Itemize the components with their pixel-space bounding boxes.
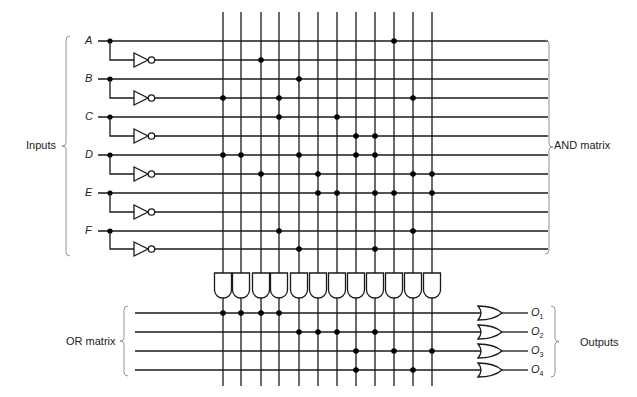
- or-connection-dot: [238, 310, 244, 316]
- and-connection-dot: [296, 152, 302, 158]
- and-gate-icon: [233, 273, 250, 298]
- and-connection-dot: [429, 171, 435, 177]
- and-connection-dot: [238, 152, 244, 158]
- and-gate-icon: [215, 273, 232, 298]
- and-connection-dot: [353, 152, 359, 158]
- and-connection-dot: [334, 190, 340, 196]
- and-connection-dot: [276, 95, 282, 101]
- or-gate-icon: [478, 363, 502, 377]
- and-connection-dot: [391, 38, 397, 44]
- and-gate-icon: [310, 273, 327, 298]
- inputs-label: Inputs: [26, 140, 56, 151]
- and-connection-dot: [429, 190, 435, 196]
- and-connection-dot: [315, 171, 321, 177]
- input-label-c: C: [85, 111, 93, 122]
- inverter-icon: [134, 91, 148, 105]
- and-gate-icon: [271, 273, 288, 298]
- inverter-bubble: [148, 95, 154, 101]
- inverter-bubble: [148, 171, 154, 177]
- and-connection-dot: [372, 133, 378, 139]
- or-connection-dot: [334, 329, 340, 335]
- or-connection-dot: [429, 348, 435, 354]
- outputs-bracket: [551, 306, 559, 377]
- and-connection-dot: [276, 114, 282, 120]
- and-connection-dot: [315, 190, 321, 196]
- and-matrix-label: AND matrix: [554, 140, 610, 151]
- inverter-bubble: [148, 209, 154, 215]
- output-label-2: O2: [531, 326, 543, 339]
- inverter-icon: [134, 167, 148, 181]
- or-connection-dot: [220, 310, 226, 316]
- and-gate-icon: [405, 273, 422, 298]
- and-gate-icon: [367, 273, 384, 298]
- inverter-branch: [110, 79, 134, 98]
- input-label-e: E: [85, 187, 92, 198]
- and-matrix-bracket: [545, 40, 553, 254]
- or-connection-dot: [296, 329, 302, 335]
- inverter-branch: [110, 41, 134, 60]
- and-gate-icon: [329, 273, 346, 298]
- input-label-d: D: [85, 149, 93, 160]
- inverter-icon: [134, 242, 148, 256]
- and-connection-dot: [296, 76, 302, 82]
- outputs-label: Outputs: [580, 337, 619, 348]
- and-connection-dot: [258, 57, 264, 63]
- output-label-3: O3: [531, 345, 543, 358]
- inverter-bubble: [148, 57, 154, 63]
- and-connection-dot: [258, 171, 264, 177]
- or-connection-dot: [315, 329, 321, 335]
- and-connection-dot: [372, 152, 378, 158]
- inverter-branch: [110, 231, 134, 249]
- or-connection-dot: [391, 348, 397, 354]
- and-connection-dot: [410, 228, 416, 234]
- and-gate-icon: [386, 273, 403, 298]
- and-connection-dot: [410, 171, 416, 177]
- and-gate-icon: [253, 273, 270, 298]
- inverter-icon: [134, 53, 148, 67]
- inverter-branch: [110, 155, 134, 174]
- output-label-4: O4: [531, 364, 543, 377]
- and-connection-dot: [220, 152, 226, 158]
- and-gate-icon: [424, 273, 441, 298]
- and-connection-dot: [276, 228, 282, 234]
- and-connection-dot: [220, 95, 226, 101]
- or-matrix-label: OR matrix: [66, 336, 116, 347]
- inverter-bubble: [148, 133, 154, 139]
- or-matrix-bracket: [120, 306, 128, 376]
- or-connection-dot: [353, 367, 359, 373]
- inputs-bracket: [62, 36, 70, 256]
- or-connection-dot: [372, 329, 378, 335]
- output-label-1: O1: [531, 307, 543, 320]
- inverter-branch: [110, 193, 134, 212]
- or-connection-dot: [276, 310, 282, 316]
- and-connection-dot: [296, 246, 302, 252]
- or-gate-icon: [478, 325, 502, 339]
- or-connection-dot: [353, 348, 359, 354]
- or-gate-icon: [478, 344, 502, 358]
- input-label-f: F: [85, 225, 92, 236]
- inverter-bubble: [148, 246, 154, 252]
- and-connection-dot: [372, 246, 378, 252]
- and-connection-dot: [372, 190, 378, 196]
- or-gate-icon: [478, 306, 502, 320]
- inverter-branch: [110, 117, 134, 136]
- input-label-a: A: [85, 35, 92, 46]
- and-connection-dot: [334, 114, 340, 120]
- and-gate-icon: [348, 273, 365, 298]
- inverter-icon: [134, 129, 148, 143]
- or-connection-dot: [410, 367, 416, 373]
- and-connection-dot: [410, 95, 416, 101]
- or-connection-dot: [258, 310, 264, 316]
- and-connection-dot: [353, 133, 359, 139]
- inverter-icon: [134, 205, 148, 219]
- and-connection-dot: [391, 190, 397, 196]
- and-gate-icon: [291, 273, 308, 298]
- input-label-b: B: [85, 73, 92, 84]
